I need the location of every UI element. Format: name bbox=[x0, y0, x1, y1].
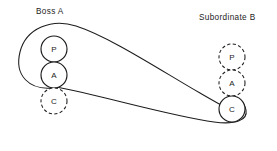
ego-label-boss-adult: A bbox=[51, 71, 57, 80]
ego-label-subordinate-child: C bbox=[229, 105, 235, 114]
ego-label-boss-child: C bbox=[51, 97, 57, 106]
ego-label-boss-parent: P bbox=[51, 45, 57, 54]
diagram-canvas: Boss A Subordinate B P A C P A C bbox=[0, 0, 277, 151]
ego-label-subordinate-adult: A bbox=[229, 79, 235, 88]
ego-label-subordinate-parent: P bbox=[229, 53, 235, 62]
ta-transaction-diagram: Boss A Subordinate B P A C P A C bbox=[0, 0, 277, 151]
response-vector-arc bbox=[56, 87, 246, 123]
party-label-subordinate-b: Subordinate B bbox=[199, 13, 256, 22]
party-label-boss-a: Boss A bbox=[36, 7, 64, 16]
